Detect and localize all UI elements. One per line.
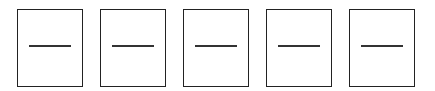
- box-1: —: [17, 9, 83, 87]
- box-4: —: [266, 9, 332, 87]
- box-symbol: —: [18, 10, 19, 11]
- dash-icon: [112, 45, 154, 47]
- box-symbol: —: [101, 10, 102, 11]
- dash-icon: [29, 45, 71, 47]
- box-2: —: [100, 9, 166, 87]
- dash-icon: [278, 45, 320, 47]
- box-row: — — — — —: [0, 0, 435, 91]
- dash-icon: [195, 45, 237, 47]
- dash-icon: [361, 45, 403, 47]
- box-symbol: —: [184, 10, 185, 11]
- box-symbol: —: [350, 10, 351, 11]
- box-3: —: [183, 9, 249, 87]
- box-symbol: —: [267, 10, 268, 11]
- box-5: —: [349, 9, 415, 87]
